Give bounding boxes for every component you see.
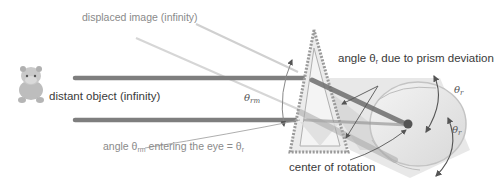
theta-rm-arc bbox=[282, 60, 292, 126]
displaced-rays bbox=[136, 24, 300, 110]
theta-r-bottom-label: θr bbox=[452, 124, 461, 137]
distant-object-label: distant object (infinity) bbox=[49, 90, 160, 102]
diagram-canvas: displaced image (infinity) distant objec… bbox=[0, 0, 498, 188]
entering-eye-label: angle θrm entering the eye = θr bbox=[103, 140, 244, 153]
displaced-image-label: displaced image (infinity) bbox=[82, 11, 198, 23]
prism-deviation-label: angle θr due to prism deviation bbox=[338, 52, 494, 65]
theta-r-top-label: θr bbox=[454, 84, 463, 97]
center-of-rotation-dot bbox=[404, 120, 413, 129]
center-of-rotation-label: center of rotation bbox=[289, 161, 375, 173]
hippo-toy-icon bbox=[18, 66, 44, 103]
theta-rm-label: θrm bbox=[244, 92, 260, 105]
